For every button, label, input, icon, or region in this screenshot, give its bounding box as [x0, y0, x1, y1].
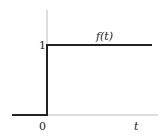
- curve-label: f(t): [95, 30, 113, 43]
- step-curve: [12, 45, 152, 115]
- step-function-chart: 1 f(t) 0 t: [0, 0, 165, 137]
- y-tick-label: 1: [39, 39, 46, 52]
- x-axis-label: t: [134, 120, 139, 133]
- x-tick-label: 0: [39, 120, 46, 133]
- chart-svg: 1 f(t) 0 t: [0, 0, 165, 137]
